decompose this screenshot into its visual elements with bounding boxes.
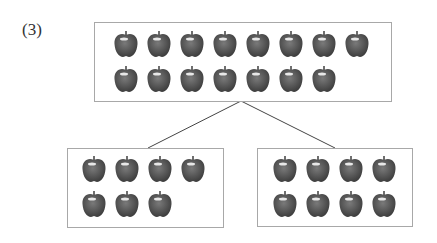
apple-icon [272, 155, 298, 183]
apple-icon [81, 190, 107, 218]
apple-icon [81, 155, 107, 183]
apple-icon [311, 65, 337, 93]
apple-icon [245, 30, 271, 58]
apple-icon [311, 30, 337, 58]
apple-icon [371, 155, 397, 183]
apple-icon [305, 155, 331, 183]
apple-icon [147, 155, 173, 183]
apple-icon [179, 65, 205, 93]
apple-icon [272, 190, 298, 218]
apple-icon [338, 190, 364, 218]
apple-icon [146, 65, 172, 93]
whole-box [94, 22, 392, 102]
apple-icon [113, 65, 139, 93]
apple-icon [179, 30, 205, 58]
apple-icon [113, 30, 139, 58]
apple-icon [305, 190, 331, 218]
apple-icon [245, 65, 271, 93]
apple-icon [371, 190, 397, 218]
apple-icon [338, 155, 364, 183]
part-box-right [257, 148, 413, 227]
apple-icon [114, 155, 140, 183]
apple-icon [180, 155, 206, 183]
apple-icon [212, 65, 238, 93]
apple-icon [278, 65, 304, 93]
part-box-left [67, 148, 224, 228]
apple-icon [212, 30, 238, 58]
apple-icon [278, 30, 304, 58]
apple-icon [344, 30, 370, 58]
apple-icon [146, 30, 172, 58]
apple-icon [147, 190, 173, 218]
apple-icon [114, 190, 140, 218]
